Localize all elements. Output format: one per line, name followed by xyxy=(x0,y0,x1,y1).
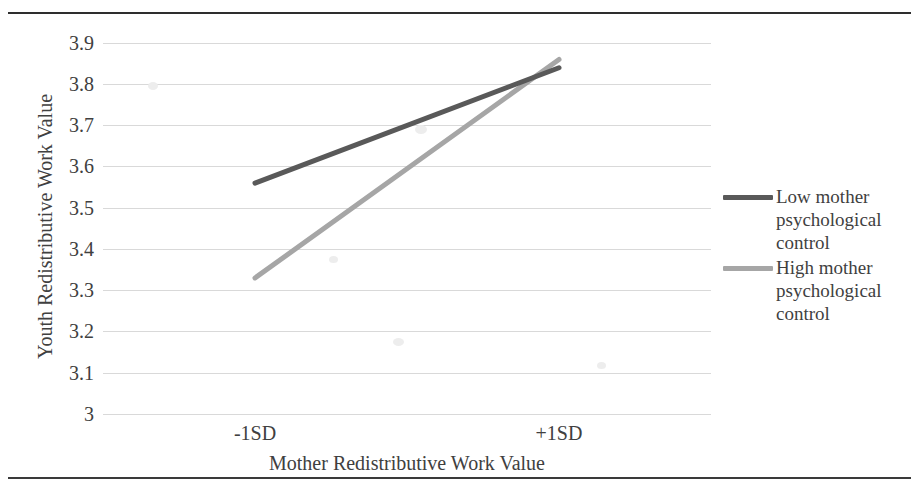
y-tick-label: 3.5 xyxy=(36,198,94,218)
figure-top-rule xyxy=(8,12,911,14)
legend-label-line: High mother xyxy=(776,256,908,279)
y-axis-tick-labels: 3.9 3.8 3.7 3.6 3.5 3.4 3.3 3.2 3.1 3 xyxy=(36,20,94,420)
scan-speck xyxy=(597,362,606,369)
scan-speck xyxy=(148,82,158,90)
scan-speck xyxy=(329,256,338,263)
legend-swatch-icon xyxy=(723,266,773,271)
legend-label-line: control xyxy=(776,231,908,254)
scan-speck xyxy=(393,338,404,346)
legend-label-line: psychological xyxy=(776,279,908,302)
y-tick-label: 3.7 xyxy=(36,115,94,135)
legend-entry-high[interactable]: High mother psychological control xyxy=(723,256,913,325)
figure-bottom-rule xyxy=(8,477,911,479)
line-chart: Youth Redistributive Work Value 3.9 3.8 … xyxy=(0,20,919,470)
y-tick-label: 3.1 xyxy=(36,363,94,383)
y-tick-label: 3.8 xyxy=(36,74,94,94)
y-tick-label: 3.4 xyxy=(36,239,94,259)
x-tick-label: -1SD xyxy=(234,422,276,445)
scan-speck xyxy=(415,125,427,134)
legend-label-line: control xyxy=(776,302,908,325)
legend-label-line: psychological xyxy=(776,208,908,231)
chart-legend: Low mother psychological control High mo… xyxy=(723,185,913,327)
y-tick-label: 3 xyxy=(36,404,94,424)
series-line-low-mother-psychological-control xyxy=(255,59,559,277)
y-tick-label: 3.6 xyxy=(36,156,94,176)
x-tick-label: +1SD xyxy=(536,422,583,445)
y-tick-label: 3.2 xyxy=(36,321,94,341)
series-lines xyxy=(103,20,711,420)
legend-label-high: High mother psychological control xyxy=(776,256,908,325)
y-tick-label: 3.3 xyxy=(36,280,94,300)
figure-page: Youth Redistributive Work Value 3.9 3.8 … xyxy=(0,0,919,494)
legend-label-line: Low mother xyxy=(776,185,908,208)
plot-area xyxy=(103,20,711,420)
legend-entry-low[interactable]: Low mother psychological control xyxy=(723,185,913,254)
legend-swatch-icon xyxy=(723,195,773,200)
x-axis-title: Mother Redistributive Work Value xyxy=(103,452,711,475)
legend-label-low: Low mother psychological control xyxy=(776,185,908,254)
y-tick-label: 3.9 xyxy=(36,33,94,53)
x-axis-tick-labels: -1SD +1SD xyxy=(103,422,711,452)
